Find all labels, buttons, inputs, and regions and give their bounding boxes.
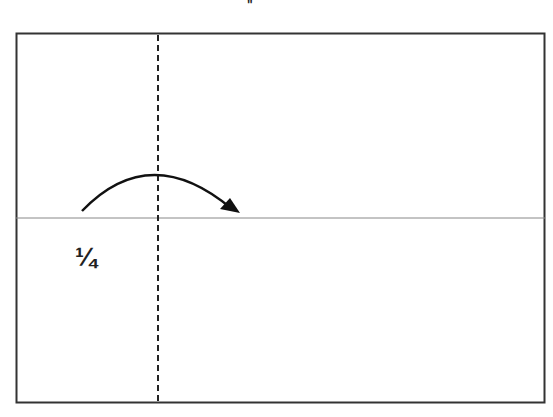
top-mark: " [247, 0, 254, 10]
diagram-canvas [0, 0, 553, 417]
fold-fraction-label: ¼ [75, 243, 97, 271]
fold-diagram: " ¼ [0, 0, 553, 417]
